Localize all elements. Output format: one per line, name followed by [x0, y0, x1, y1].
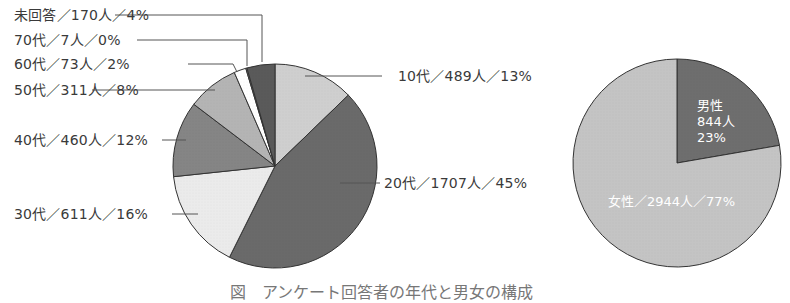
label-70s: 70代／7人／0%: [14, 32, 121, 48]
label-20s: 20代／1707人／45%: [384, 175, 527, 191]
label-male-count: 844人: [697, 114, 735, 129]
age-pie-chart: [173, 64, 377, 268]
label-60s: 60代／73人／2%: [14, 56, 130, 72]
label-male-percent: 23%: [697, 130, 726, 145]
label-30s: 30代／611人／16%: [14, 206, 148, 222]
gender-pie-chart: [573, 59, 781, 267]
label-no-answer: 未回答／170人／4%: [14, 7, 149, 23]
label-male-title: 男性: [697, 98, 723, 113]
label-female: 女性／2944人／77%: [608, 194, 735, 209]
label-10s: 10代／489人／13%: [398, 68, 532, 84]
figure-caption: 図 アンケート回答者の年代と男女の構成: [230, 279, 533, 303]
label-40s: 40代／460人／12%: [14, 132, 148, 148]
label-50s: 50代／311人／8%: [14, 82, 139, 98]
